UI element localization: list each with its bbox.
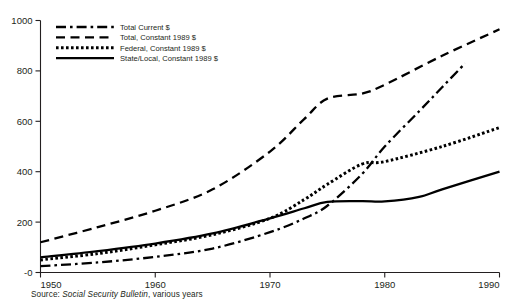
source-suffix: , various years <box>148 290 203 299</box>
legend-label: Total, Constant 1989 $ <box>120 33 197 42</box>
legend-label: State/Local, Constant 1989 $ <box>120 54 219 63</box>
legend-label: Total Current $ <box>120 23 171 32</box>
x-tick-label: 1970 <box>259 279 280 290</box>
y-tick-label: 200 <box>17 217 33 228</box>
legend-label: Federal, Constant 1989 $ <box>120 44 206 53</box>
x-tick-label: 1990 <box>478 279 499 290</box>
chart-series-group <box>41 29 500 266</box>
series-line <box>41 172 500 258</box>
series-line <box>41 29 500 242</box>
y-tick-label: -0 <box>24 267 32 278</box>
y-tick-label: 600 <box>17 116 33 127</box>
x-axis-tick-labels: 19501960197019801990 <box>41 279 500 290</box>
chart-container: -02004006008001000 19501960197019801990 … <box>0 0 514 308</box>
chart-legend: Total Current $Total, Constant 1989 $Fed… <box>56 23 219 63</box>
y-axis-tick-labels: -02004006008001000 <box>11 15 32 278</box>
source-prefix: Source: <box>31 290 62 299</box>
x-tick-label: 1980 <box>374 279 395 290</box>
y-tick-label: 400 <box>17 166 33 177</box>
x-tick-label: 1950 <box>41 279 62 290</box>
source-note: Source: Social Security Bulletin, variou… <box>31 290 203 299</box>
line-chart: -02004006008001000 19501960197019801990 … <box>0 0 514 308</box>
x-axis-ticks <box>41 273 500 278</box>
x-tick-label: 1960 <box>145 279 166 290</box>
y-tick-label: 800 <box>17 65 33 76</box>
y-tick-label: 1000 <box>11 15 32 26</box>
source-publication: Social Security Bulletin <box>62 290 148 299</box>
series-line <box>41 63 466 266</box>
y-axis-ticks <box>36 21 41 273</box>
